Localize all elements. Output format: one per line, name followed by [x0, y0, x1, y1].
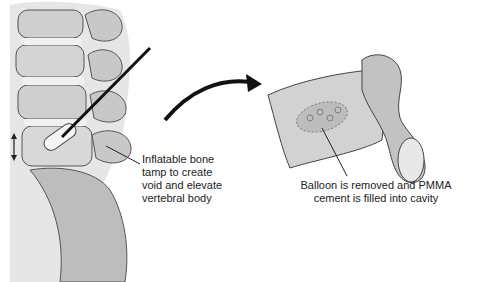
spine-column — [10, 2, 150, 282]
label-line: Inflatable bone — [142, 153, 222, 166]
treated-vertebra — [268, 55, 425, 183]
label-line: cement is filled into cavity — [278, 192, 474, 205]
label-line: tamp to create — [142, 166, 222, 179]
label-line: Balloon is removed and PMMA — [278, 179, 474, 192]
label-inflatable-bone-tamp: Inflatable bone tamp to create void and … — [142, 153, 222, 205]
curved-arrow-icon — [165, 74, 262, 120]
label-pmma-cement: Balloon is removed and PMMA cement is fi… — [278, 179, 474, 205]
kyphoplasty-illustration — [0, 0, 482, 282]
label-line: void and elevate — [142, 179, 222, 192]
label-line: vertebral body — [142, 192, 222, 205]
